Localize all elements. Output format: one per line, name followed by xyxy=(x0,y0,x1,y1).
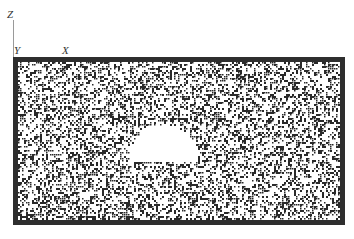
x-axis-label: X xyxy=(62,45,69,56)
particle-specimen-canvas xyxy=(13,57,345,225)
z-axis-label: Z xyxy=(7,9,13,20)
y-axis-label: Y xyxy=(14,45,20,56)
